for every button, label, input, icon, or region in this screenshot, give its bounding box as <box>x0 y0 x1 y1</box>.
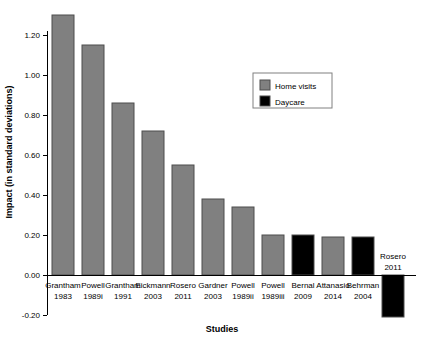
bar <box>142 131 164 275</box>
x-axis-category-label: 1983 <box>54 292 72 301</box>
bar <box>112 103 134 275</box>
x-axis-category-label: Gardner <box>198 281 228 290</box>
y-axis-tick-label: 0.40 <box>24 191 40 200</box>
legend-label: Daycare <box>275 98 305 107</box>
bar <box>82 45 104 275</box>
x-axis-category-label: Bernal <box>291 281 314 290</box>
y-axis-tick-label: 1.00 <box>24 71 40 80</box>
x-axis-category-label: 2014 <box>324 292 342 301</box>
bar <box>172 165 194 275</box>
x-axis-category-label: 1989iii <box>261 292 284 301</box>
x-axis-category-label: 2003 <box>204 292 222 301</box>
x-axis-category-label: Rosero <box>380 252 406 261</box>
x-axis-category-label: Eickmann <box>135 281 170 290</box>
bar <box>232 207 254 275</box>
x-axis-category-label: 1989i <box>83 292 103 301</box>
x-axis-category-label: 2003 <box>144 292 162 301</box>
x-axis-category-label: 2011 <box>384 263 402 272</box>
y-axis-tick-label: 1.20 <box>24 31 40 40</box>
y-axis-tick-label: -0.20 <box>22 311 41 320</box>
legend-swatch <box>260 96 270 106</box>
bar <box>382 275 404 317</box>
x-axis-category-label: 1989ii <box>232 292 254 301</box>
bar <box>202 199 224 275</box>
x-axis-category-label: Behrman <box>347 281 379 290</box>
x-axis-category-label: Powell <box>81 281 105 290</box>
x-axis-category-label: 2009 <box>294 292 312 301</box>
x-axis-category-label: Attanasio <box>316 281 350 290</box>
chart-legend: Home visitsDaycare <box>253 73 332 108</box>
x-axis-category-label: 2011 <box>174 292 192 301</box>
bar <box>352 237 374 275</box>
y-axis-tick-label: 0.20 <box>24 231 40 240</box>
y-axis-tick-label: 0.60 <box>24 151 40 160</box>
x-axis-category-label: Grantham <box>45 281 81 290</box>
chart-canvas: -0.200.000.200.400.600.801.001.20 Granth… <box>0 0 444 347</box>
bar <box>262 235 284 275</box>
y-axis-tick-label: 0.80 <box>24 111 40 120</box>
bar <box>52 15 74 275</box>
x-axis-title: Studies <box>206 324 239 334</box>
x-axis-category-label: 2004 <box>354 292 372 301</box>
bar-chart: -0.200.000.200.400.600.801.001.20 Granth… <box>0 0 444 347</box>
legend-label: Home visits <box>275 82 316 91</box>
bar <box>322 237 344 275</box>
x-axis-category-label: 1991 <box>114 292 132 301</box>
bar <box>292 235 314 275</box>
x-axis-category-label: Powell <box>231 281 255 290</box>
legend-swatch <box>260 80 270 90</box>
x-axis-category-label: Rosero <box>170 281 196 290</box>
x-axis-category-label: Powell <box>261 281 285 290</box>
y-axis-title: Impact (in standard deviations) <box>4 85 14 218</box>
y-axis-tick-label: 0.00 <box>24 271 40 280</box>
